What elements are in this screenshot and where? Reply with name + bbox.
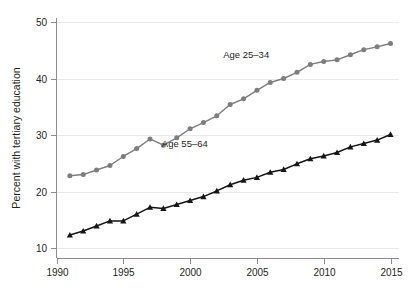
data-point (388, 41, 393, 46)
data-point (335, 57, 340, 62)
x-tick-label-1995: 1995 (112, 267, 135, 278)
data-point (201, 120, 206, 125)
x-tick-label-2010: 2010 (313, 267, 336, 278)
data-point (294, 70, 299, 75)
data-point (348, 52, 353, 57)
data-point (134, 146, 139, 151)
data-point (241, 96, 246, 101)
data-point (121, 154, 126, 159)
x-tick-label-2005: 2005 (246, 267, 269, 278)
y-tick-label-30: 30 (36, 130, 48, 141)
data-point (228, 102, 233, 107)
data-point (67, 173, 72, 178)
data-point (94, 168, 99, 173)
data-point (107, 163, 112, 168)
y-tick-label-50: 50 (36, 17, 48, 28)
data-point (321, 59, 326, 64)
series-annotation-0: Age 25–34 (223, 49, 269, 60)
data-point (214, 113, 219, 118)
y-tick-label-10: 10 (36, 243, 48, 254)
series-annotation-1: Age 55–64 (162, 138, 208, 149)
data-point (268, 80, 273, 85)
data-point (188, 126, 193, 131)
x-tick-label-2000: 2000 (179, 267, 202, 278)
y-tick-label-40: 40 (36, 74, 48, 85)
line-chart: 1020304050 199019952000200520102015 Age … (0, 0, 413, 292)
data-point (361, 47, 366, 52)
data-point (281, 76, 286, 81)
data-point (308, 62, 313, 67)
y-axis-title: Percent with tertiary education (10, 67, 22, 208)
data-point (375, 44, 380, 49)
data-point (254, 88, 259, 93)
y-tick-label-20: 20 (36, 187, 48, 198)
data-point (148, 136, 153, 141)
chart-container: 1020304050 199019952000200520102015 Age … (0, 0, 413, 292)
data-point (81, 172, 86, 177)
x-tick-label-1990: 1990 (46, 267, 69, 278)
x-tick-label-2015: 2015 (380, 267, 403, 278)
